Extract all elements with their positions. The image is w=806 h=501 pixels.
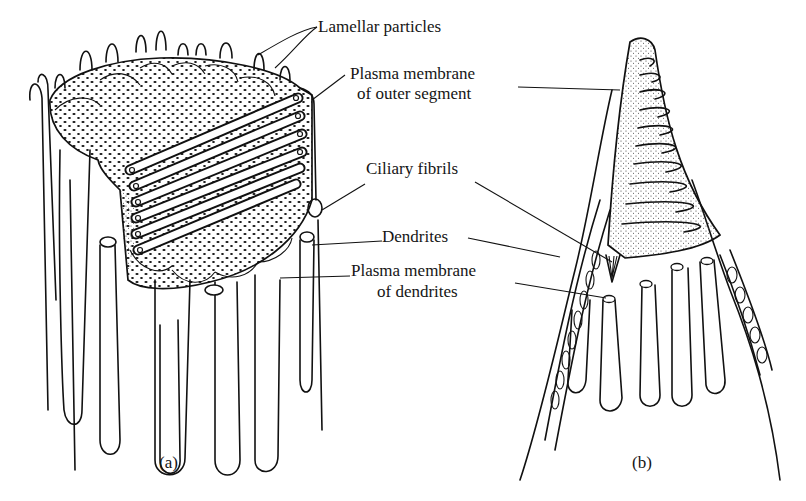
caption-panel-a: (a) [159,453,178,473]
label-plasma-membrane-dendrites-line2: of dendrites [377,282,458,301]
panel-a-illustration [30,31,322,475]
caption-panel-b: (b) [632,453,652,473]
label-plasma-membrane-outer-line1: Plasma membrane [350,64,475,83]
label-lamellar-particles: Lamellar particles [318,17,441,36]
panel-b-illustration [520,38,780,480]
label-plasma-membrane-outer-line2: of outer segment [357,84,471,103]
label-ciliary-fibrils: Ciliary fibrils [366,159,458,178]
label-plasma-membrane-dendrites-line1: Plasma membrane [351,261,476,280]
label-dendrites: Dendrites [382,227,448,246]
